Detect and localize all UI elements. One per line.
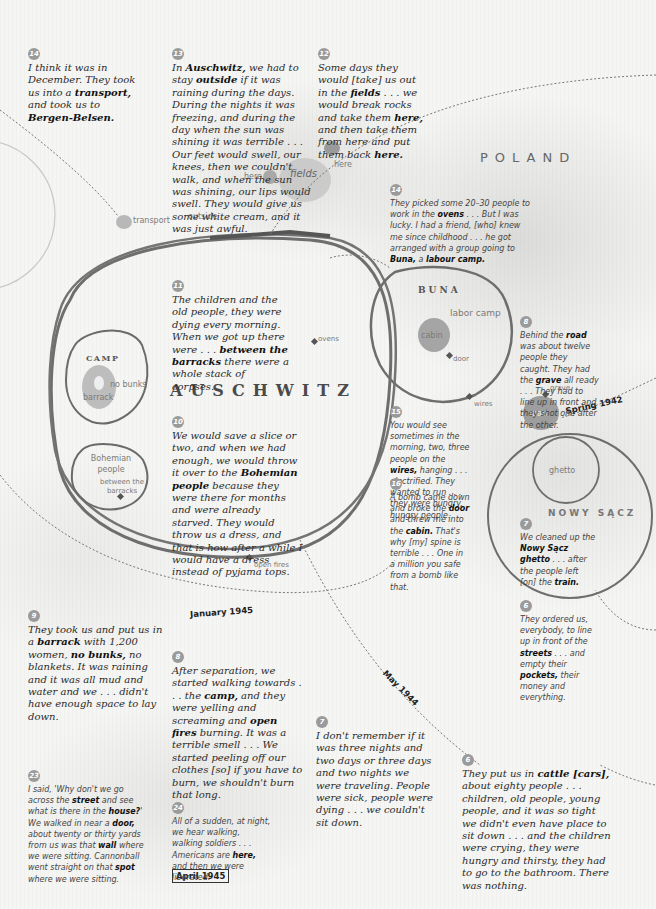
quote-text: In Auschwitz, we had to stay outside if … (172, 62, 312, 236)
label-ghetto: ghetto (549, 466, 575, 475)
transport-stain (116, 215, 132, 229)
route-to-bergen-belsen (0, 110, 118, 216)
quote-6-cattle-cars: 6They put us in cattle [cars], about eig… (462, 754, 612, 892)
quote-text: All of a sudden, at night, we hear walki… (172, 816, 272, 883)
barrack-stain-hole (94, 376, 104, 390)
quote-number-badge: 8 (172, 651, 184, 663)
quote-8-road: 8Behind the road was about twelve people… (520, 316, 600, 431)
quote-number-badge: 11 (172, 280, 184, 292)
quote-13-auschwitz-outside: 13In Auschwitz, we had to stay outside i… (172, 48, 312, 236)
quote-number-badge: 23 (28, 770, 40, 782)
quote-text: Behind the road was about twelve people … (520, 330, 600, 431)
label-cabin: cabin (421, 331, 443, 340)
quote-16-bomb: 16A bomb came down and broke the door an… (390, 478, 470, 593)
label-ovens: ovens (318, 335, 339, 343)
ovens-marker (311, 338, 318, 345)
quote-text: We cleaned up the Nowy Sącz ghetto . . .… (520, 532, 596, 588)
quote-number-badge: 13 (172, 48, 184, 60)
quote-text: They ordered us, everybody, to line up i… (520, 614, 596, 704)
place-buna: BUNA (418, 285, 461, 295)
place-camp: CAMP (86, 353, 119, 363)
quote-number-badge: 6 (520, 600, 532, 612)
quote-14-bergen-belsen: 14I think it was in December. They took … (28, 48, 148, 124)
quote-7-traveling: 7I don't remember if it was three nights… (316, 716, 436, 829)
quote-23-cannonball: 23I said, 'Why don't we go across the st… (28, 770, 148, 885)
quote-number-badge: 10 (172, 416, 184, 428)
place-nowy-sacz: NOWY SĄCZ (548, 508, 636, 518)
quote-number-badge: 24 (172, 802, 184, 814)
quote-text: A bomb came down and broke the door and … (390, 492, 470, 593)
quote-text: Some days they would [take] us out in th… (318, 62, 428, 161)
quote-text: The children and the old people, they we… (172, 294, 290, 393)
quote-text: They put us in cattle [cars], about eigh… (462, 768, 612, 892)
quote-number-badge: 14 (28, 48, 40, 60)
label-between-the-barracks: between the barracks (100, 478, 144, 496)
quote-number-badge: 7 (520, 518, 532, 530)
quote-number-badge: 12 (318, 48, 330, 60)
quote-number-badge: 7 (316, 716, 328, 728)
label-labor-camp: labor camp (450, 308, 501, 318)
quote-14-buna: 14They picked some 20–30 people to work … (390, 184, 530, 265)
quote-number-badge: 9 (28, 610, 40, 622)
quote-text: They took us and put us in a barrack wit… (28, 624, 168, 723)
label-door: door (453, 355, 469, 363)
quote-number-badge: 16 (390, 478, 402, 490)
place-poland: POLAND (480, 150, 576, 165)
label-barrack: barrack (83, 393, 113, 402)
quote-8-camp: 8After separation, we started walking to… (172, 651, 304, 801)
label-wires: wires (474, 400, 492, 408)
bergen-belsen-circle (0, 140, 55, 290)
quote-text: I said, 'Why don't we go across the stre… (28, 784, 148, 885)
quote-number-badge: 6 (462, 754, 474, 766)
label-bohemian-people: Bohemian people (86, 453, 136, 475)
quote-11-corpses: 11The children and the old people, they … (172, 280, 290, 393)
quote-text: They picked some 20–30 people to work in… (390, 198, 530, 265)
label-here-2: here (334, 160, 352, 169)
quote-10-bohemian-people: 10We would save a slice or two, and when… (172, 416, 304, 579)
quote-number-badge: 14 (390, 184, 402, 196)
door-marker (446, 352, 453, 359)
route-nowy-sacz-arrival (595, 590, 656, 630)
quote-text: We would save a slice or two, and when w… (172, 430, 304, 579)
quote-24-liberation: 24All of a sudden, at night, we hear wal… (172, 802, 272, 883)
quote-text: I don't remember if it was three nights … (316, 730, 436, 829)
quote-number-badge: 8 (520, 316, 532, 328)
quote-6-streets: 6They ordered us, everybody, to line up … (520, 600, 596, 704)
quote-text: After separation, we started walking tow… (172, 665, 304, 801)
quote-text: I think it was in December. They took us… (28, 62, 148, 124)
label-transport: transport (133, 216, 170, 225)
quote-7-nowy-sacz-ghetto: 7We cleaned up the Nowy Sącz ghetto . . … (520, 518, 596, 588)
quote-12-fields: 12Some days they would [take] us out in … (318, 48, 428, 161)
quote-number-badge: 15 (390, 406, 402, 418)
quote-9-barrack: 9They took us and put us in a barrack wi… (28, 610, 168, 723)
label-no-bunks: no bunks (110, 380, 147, 389)
